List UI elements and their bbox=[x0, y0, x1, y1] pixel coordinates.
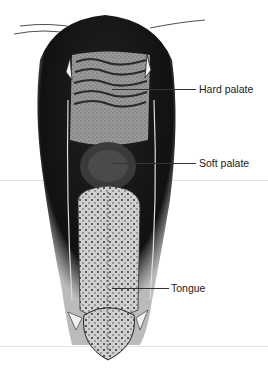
hard-palate-label: Hard palate bbox=[199, 83, 253, 95]
oral-cavity-illustration bbox=[0, 0, 268, 377]
hard-palate-shape bbox=[70, 52, 150, 146]
tongue-label: Tongue bbox=[171, 282, 205, 294]
hard-palate-leader bbox=[112, 89, 196, 90]
tongue-tip bbox=[84, 308, 135, 361]
tongue-leader bbox=[112, 288, 169, 289]
soft-palate-label: Soft palate bbox=[199, 157, 249, 169]
tongue-shape bbox=[78, 186, 140, 318]
soft-palate-leader bbox=[112, 163, 196, 164]
